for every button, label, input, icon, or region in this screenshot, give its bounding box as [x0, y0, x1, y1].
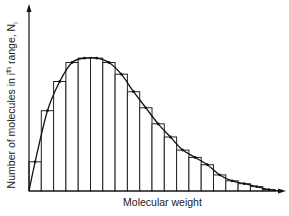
curve-point [157, 122, 160, 125]
curve-point [58, 80, 61, 83]
curve-point [46, 109, 49, 112]
histogram-chart [0, 0, 289, 216]
curve-point [95, 57, 98, 60]
curve-point [34, 160, 37, 163]
curve-point [71, 61, 74, 64]
histogram-bar [140, 108, 152, 191]
histogram-bar [127, 92, 139, 191]
histogram-bar [66, 63, 78, 191]
histogram-bar [91, 58, 103, 191]
curve-point [108, 61, 111, 64]
curve-point [255, 185, 258, 188]
histogram-bar [29, 162, 41, 191]
histogram-bar [78, 58, 90, 191]
y-axis-arrow-icon [27, 4, 32, 12]
histogram-bar [103, 63, 115, 191]
y-axis-label: Number of molecules in ith range, Ni [5, 15, 20, 195]
x-axis-label: Molecular weight [0, 196, 289, 208]
curve-point [120, 73, 123, 76]
curve-point [206, 163, 209, 166]
histogram-bars [29, 58, 275, 191]
histogram-bar [115, 74, 127, 191]
histogram-bar [189, 157, 201, 191]
histogram-bar [54, 82, 66, 192]
curve-point [194, 156, 197, 159]
curve-point [231, 179, 234, 182]
curve-point [169, 136, 172, 139]
x-axis-arrow-icon [278, 189, 286, 194]
histogram-bar [41, 111, 53, 191]
curve-point [83, 57, 86, 60]
curve-point [144, 106, 147, 109]
histogram-bar [152, 124, 164, 191]
curve-point [181, 149, 184, 152]
curve-point [243, 182, 246, 185]
histogram-bar [177, 150, 189, 191]
histogram-bar [164, 137, 176, 191]
curve-point [218, 174, 221, 177]
curve-point [132, 90, 135, 93]
